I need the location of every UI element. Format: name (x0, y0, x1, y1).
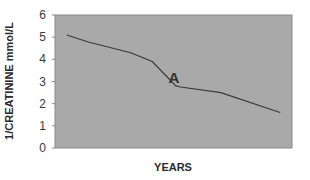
y-tick-label: 5 (39, 30, 46, 44)
y-axis: 0123456 (39, 8, 55, 155)
y-tick-label: 3 (39, 75, 46, 89)
y-tick-label: 1 (39, 119, 46, 133)
y-axis-title: 1/CREATININE mmol/L (3, 22, 15, 140)
y-tick-label: 0 (39, 141, 46, 155)
y-tick-label: 2 (39, 97, 46, 111)
line-chart: 0123456 A YEARS 1/CREATININE mmol/L (0, 0, 310, 180)
annotation-label: A (169, 69, 180, 86)
y-tick-label: 4 (39, 52, 46, 66)
y-tick-label: 6 (39, 8, 46, 22)
x-axis-title: YEARS (154, 161, 192, 173)
